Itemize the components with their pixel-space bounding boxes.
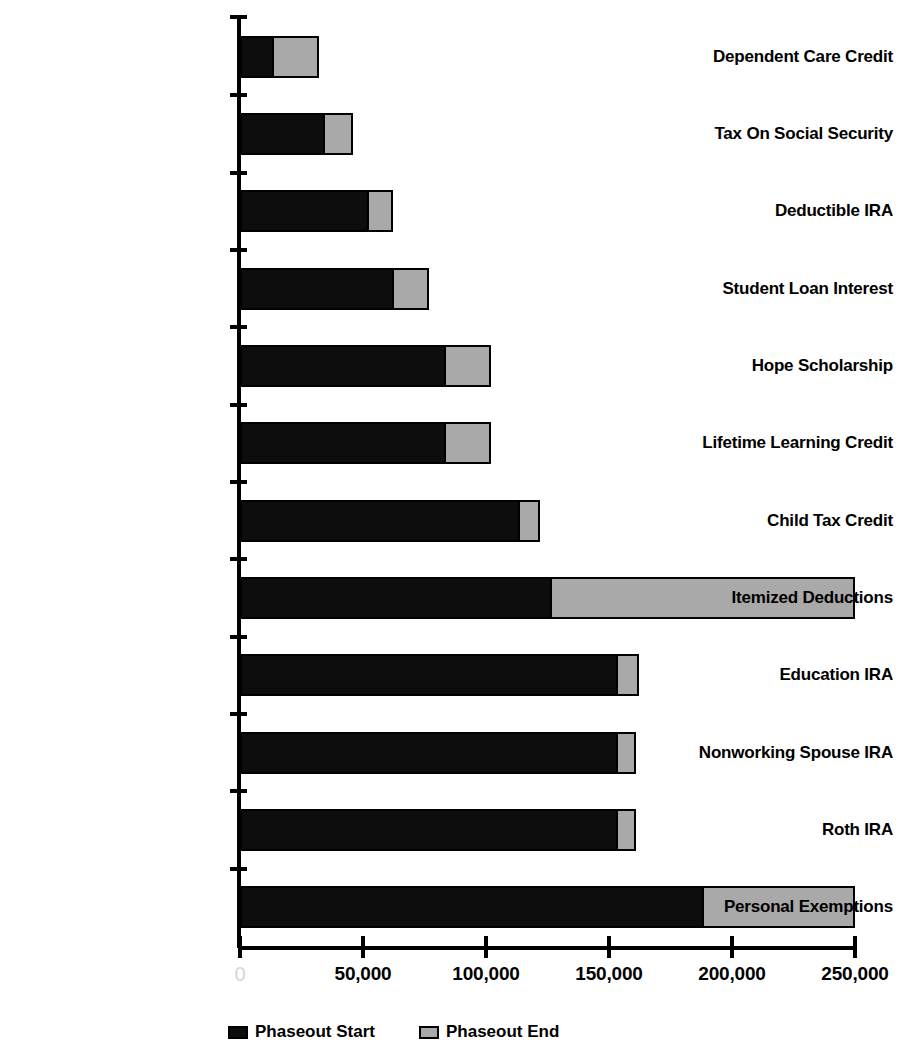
category-label: Personal Exemptions (673, 874, 903, 940)
bar-segment-phaseout-start (242, 734, 616, 772)
x-axis-tick (361, 936, 365, 958)
category-label: Roth IRA (673, 797, 903, 863)
bar-segment-phaseout-start (242, 115, 323, 153)
category-label: Deductible IRA (673, 178, 903, 244)
category-label: Child Tax Credit (673, 488, 903, 554)
y-axis-tick (230, 635, 247, 639)
x-axis-spine (238, 946, 856, 950)
x-axis-tick-label: 250,000 (821, 963, 888, 985)
legend-label: Phaseout Start (255, 1022, 375, 1042)
bar-segment-phaseout-start (242, 502, 518, 540)
y-axis-tick (230, 403, 247, 407)
y-axis-tick (230, 712, 247, 716)
x-axis-tick-label: 50,000 (335, 963, 392, 985)
bar-segment-phaseout-end (518, 502, 539, 540)
x-axis-tick-label: 200,000 (698, 963, 765, 985)
stacked-bar (240, 809, 636, 851)
stacked-bar (240, 113, 353, 155)
stacked-bar (240, 345, 491, 387)
bar-segment-phaseout-end (392, 270, 427, 308)
legend-label: Phaseout End (446, 1022, 559, 1042)
category-label: Lifetime Learning Credit (673, 410, 903, 476)
y-axis-tick (230, 789, 247, 793)
bar-segment-phaseout-end (444, 347, 489, 385)
y-axis-tick (230, 93, 247, 97)
stacked-bar (240, 36, 319, 78)
y-axis-tick (230, 171, 247, 175)
stacked-bar (240, 732, 636, 774)
x-axis-tick (853, 936, 857, 958)
category-label: Itemized Deductions (673, 565, 903, 631)
category-label: Tax On Social Security (673, 101, 903, 167)
category-label: Hope Scholarship (673, 333, 903, 399)
bar-segment-phaseout-start (242, 888, 702, 926)
legend-item: Phaseout End (419, 1022, 559, 1042)
x-axis-tick (238, 936, 242, 958)
x-axis-tick-label: 0 (235, 963, 246, 986)
category-label: Nonworking Spouse IRA (673, 720, 903, 786)
x-axis-tick-label: 150,000 (575, 963, 642, 985)
category-label: Dependent Care Credit (673, 24, 903, 90)
bar-segment-phaseout-start (242, 270, 392, 308)
y-axis-tick (230, 557, 247, 561)
stacked-bar (240, 500, 540, 542)
y-axis-tick (230, 248, 247, 252)
bar-segment-phaseout-start (242, 811, 616, 849)
legend-swatch (419, 1026, 439, 1039)
bar-segment-phaseout-end (444, 424, 489, 462)
stacked-bar (240, 654, 639, 696)
y-axis-tick (230, 867, 247, 871)
bar-segment-phaseout-start (242, 579, 550, 617)
bar-segment-phaseout-end (367, 192, 390, 230)
y-axis-tick (230, 325, 247, 329)
x-axis-tick (730, 936, 734, 958)
bar-segment-phaseout-start (242, 38, 272, 76)
bar-segment-phaseout-start (242, 424, 444, 462)
legend-swatch (228, 1026, 248, 1039)
x-axis-tick-label: 100,000 (452, 963, 519, 985)
chart-legend: Phaseout StartPhaseout End (228, 1020, 593, 1043)
x-axis-tick (484, 936, 488, 958)
x-axis-tick (607, 936, 611, 958)
y-axis-tick-top (230, 15, 247, 19)
bar-segment-phaseout-end (616, 656, 637, 694)
bar-segment-phaseout-start (242, 347, 444, 385)
legend-item: Phaseout Start (228, 1022, 375, 1042)
bar-segment-phaseout-start (242, 192, 367, 230)
stacked-bar (240, 268, 429, 310)
stacked-bar (240, 422, 491, 464)
category-label: Education IRA (673, 642, 903, 708)
category-label: Student Loan Interest (673, 256, 903, 322)
bar-segment-phaseout-end (616, 734, 634, 772)
y-axis-tick (230, 480, 247, 484)
bar-segment-phaseout-end (272, 38, 317, 76)
stacked-bar (240, 190, 393, 232)
bar-segment-phaseout-end (323, 115, 351, 153)
bar-segment-phaseout-start (242, 656, 616, 694)
bar-segment-phaseout-end (616, 811, 634, 849)
